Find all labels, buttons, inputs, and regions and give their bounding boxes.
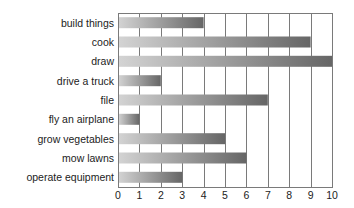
bar-build-things [118, 17, 204, 28]
category-label: grow vegetables [38, 133, 114, 145]
bar-chart: build thingscookdrawdrive a truckfilefly… [0, 0, 354, 208]
bar-mow-lawns [118, 153, 246, 164]
category-label: drive a truck [57, 75, 115, 87]
x-tick-label: 9 [308, 189, 314, 201]
x-tick-label: 2 [158, 189, 164, 201]
category-label: cook [92, 36, 115, 48]
x-tick-label: 7 [265, 189, 271, 201]
bar-drive-a-truck [118, 75, 161, 86]
bar-file [118, 95, 268, 106]
category-label: fly an airplane [49, 113, 115, 125]
x-tick-label: 1 [136, 189, 142, 201]
category-label: draw [91, 55, 114, 67]
bar-grow-vegetables [118, 133, 225, 144]
category-label: build things [61, 17, 114, 29]
category-label: file [101, 94, 115, 106]
x-tick-label: 0 [115, 189, 121, 201]
bar-cook [118, 37, 311, 48]
x-tick-labels: 012345678910 [115, 189, 338, 201]
bars [118, 17, 332, 183]
category-labels: build thingscookdrawdrive a truckfilefly… [26, 17, 114, 184]
bar-draw [118, 56, 332, 67]
x-tick-label: 4 [201, 189, 207, 201]
x-tick-label: 8 [286, 189, 292, 201]
category-label: mow lawns [62, 152, 114, 164]
category-label: operate equipment [26, 171, 114, 183]
x-tick-label: 5 [222, 189, 228, 201]
bar-fly-an-airplane [118, 114, 139, 125]
bar-operate-equipment [118, 172, 182, 183]
x-tick-label: 6 [243, 189, 249, 201]
x-tick-label: 3 [179, 189, 185, 201]
x-tick-label: 10 [326, 189, 338, 201]
